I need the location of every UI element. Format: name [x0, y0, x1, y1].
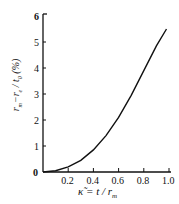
x-tick-label: 0.2 [61, 175, 73, 186]
x-tick-label: 0.6 [112, 175, 125, 186]
y-tick-label: 1 [34, 141, 39, 152]
x-axis-label-text: κ̃ = t / r [78, 185, 112, 197]
data-curve [43, 29, 167, 172]
x-tick-label: 1.0 [162, 175, 175, 186]
y-tick-label: 4 [34, 63, 39, 74]
chart-canvas: 01234560.20.40.60.81.0 [0, 0, 179, 204]
y-tick-label: 0 [33, 167, 38, 178]
y-tick-label: 2 [34, 115, 39, 126]
y-axis-label: rm−re / t0 (%) [11, 45, 25, 125]
y-axis-label-unit: (%) [10, 59, 21, 74]
x-axis-label-sub: m [112, 192, 117, 200]
y-tick-label: 3 [34, 89, 39, 100]
x-tick-label: 0.8 [137, 175, 150, 186]
x-axis-label: κ̃ = t / rm [78, 186, 117, 201]
y-tick-label: 5 [34, 37, 39, 48]
y-axis-label-fraction: rm−re / t0 [10, 76, 21, 111]
y-tick-label: 6 [34, 11, 39, 22]
